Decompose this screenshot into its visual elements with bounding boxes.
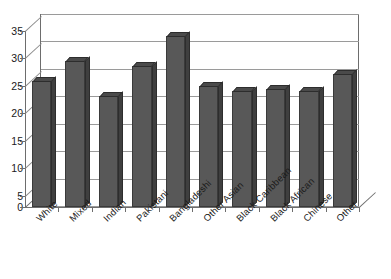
x-axis-label: Pakistani: [134, 187, 170, 223]
x-axis-label: White: [34, 198, 60, 224]
x-axis-label: Indian: [101, 197, 128, 224]
x-axis-label: Mixed: [67, 197, 93, 223]
x-axis-label: Other: [334, 198, 359, 223]
bar-chart: 35 30 25 20 15 10 5 0 WhiteMixedIndianPa…: [0, 0, 391, 279]
x-axis-labels: WhiteMixedIndianPakistaniBangladeshiOthe…: [0, 0, 391, 279]
x-axis-label: Chinese: [301, 190, 334, 223]
